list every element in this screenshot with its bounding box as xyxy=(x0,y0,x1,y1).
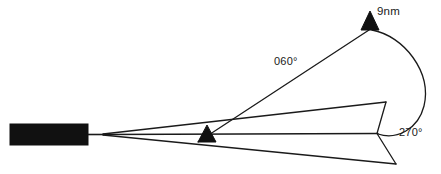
inbound-track-label: 060° xyxy=(274,55,298,67)
turn-arc xyxy=(372,30,425,136)
inbound-track-line xyxy=(198,30,369,142)
center-track-ray xyxy=(103,134,378,135)
diagram-canvas xyxy=(0,0,441,174)
chevron-upper-leg xyxy=(377,102,386,134)
chevron-lower-leg xyxy=(377,134,396,165)
lower-splay-ray xyxy=(103,135,396,164)
upper-splay-ray xyxy=(103,102,386,134)
distance-label: 9nm xyxy=(377,5,400,17)
runway-block xyxy=(10,124,88,145)
approach-diagram: 9nm 060° 270° xyxy=(0,0,441,174)
outbound-track-label: 270° xyxy=(399,126,423,138)
